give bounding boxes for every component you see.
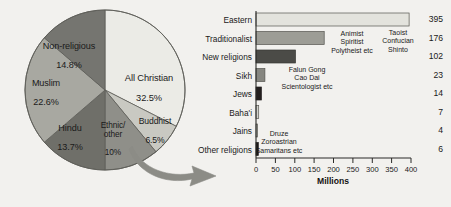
bar-category-jews: Jews [233,89,252,99]
bar-category-eastern: Eastern [223,15,252,25]
xtick-350: 350 [382,165,402,174]
bar-chart: Eastern Traditionalist New religions Sik… [215,0,451,207]
pie-label-text: Non-religious [29,42,109,52]
xtick-200: 200 [324,165,344,174]
bar-category-new-religions: New religions [202,52,252,62]
pie-label-value: 13.7% [43,143,97,153]
pie-label-non-religious: Non-religious 14.8% [29,32,109,81]
x-axis-title: Millions [293,176,373,186]
bar-value-bahai: 7 [415,107,443,117]
bar-new-religions[interactable] [256,50,296,63]
pie-label-all-christian: All Christian 32.5% [113,63,185,113]
xtick-0: 0 [246,165,266,174]
bar-category-traditionalist: Traditionalist [205,34,252,44]
pie-label-text: All Christian [113,73,185,83]
figure-root: All Christian 32.5% Buddhist 6.5% Ethnic… [0,0,451,207]
pie-label-ethnic-other: Ethnic/ other 10% [93,112,133,166]
bar-value-jains: 4 [415,125,443,135]
bar-value-other-religions: 6 [415,144,443,154]
pie-label-value: 10% [93,148,133,157]
xtick-100: 100 [285,165,305,174]
pie-label-value: 14.8% [29,61,109,71]
bar-eastern[interactable] [256,13,409,26]
xtick-300: 300 [362,165,382,174]
xtick-50: 50 [265,165,285,174]
x-axis-ticks [256,158,411,163]
bar-category-bahai: Baha'i [229,108,252,118]
pie-label-hindu: Hindu 13.7% [43,114,97,163]
bar-value-eastern: 395 [415,14,443,24]
bar-traditionalist[interactable] [256,32,324,45]
bar-category-sikh: Sikh [236,71,252,81]
pie-label-text: Ethnic/ other [93,121,133,139]
pie-label-value: 32.5% [113,93,185,103]
pie-label-text: Buddhist [129,117,181,126]
pie-label-value: 22.6% [18,98,74,108]
xtick-400: 400 [401,165,421,174]
bar-value-jews: 14 [415,88,443,98]
annotation-other-druze: Druze Zoroastrian Samaritans etc [235,130,323,155]
xtick-150: 150 [304,165,324,174]
xtick-250: 250 [343,165,363,174]
annotation-traditionalist-taoist: Taoist Confucian Shinto [373,29,423,54]
bar-value-sikh: 23 [415,70,443,80]
pie-label-text: Hindu [43,124,97,134]
annotation-sikh-falun-gong: Falun Gong Cao Dai Scientologist etc [258,66,356,91]
